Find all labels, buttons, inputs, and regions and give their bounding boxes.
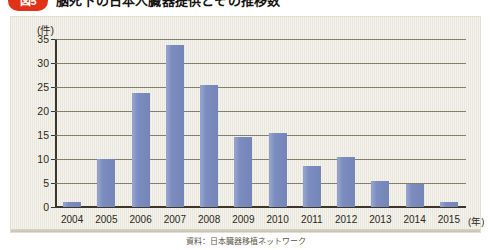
plot-area: 05101520253035 2004200520062007200820092… [55,39,466,207]
y-tick-label: 15 [37,129,49,141]
x-tick-label: 2004 [61,214,83,225]
x-tick-slot: 2011 [295,39,329,207]
x-tick-slot: 2007 [158,39,192,207]
y-tick-label: 35 [37,33,49,45]
x-tick-slot: 2015 [432,39,466,207]
x-tick-label: 2010 [267,214,289,225]
page-title: 脳死下の日本人臓器提供とその推移数 [56,0,280,9]
x-tick-slot: 2012 [329,39,363,207]
x-tick-label: 2009 [232,214,254,225]
figure-number-badge: 図5 [8,0,48,11]
x-tick-slot: 2004 [55,39,89,207]
panel-bottom-edge [11,229,480,232]
y-tick-label: 20 [37,105,49,117]
x-tick-slot: 2009 [226,39,260,207]
y-tick-label: 30 [37,57,49,69]
x-tick-slot: 2010 [261,39,295,207]
x-tick-label: 2006 [130,214,152,225]
x-tick-slot: 2006 [124,39,158,207]
x-tick-label: 2008 [198,214,220,225]
x-tick-label: 2011 [301,214,323,225]
title-header: 図5 脳死下の日本人臓器提供とその推移数 [0,0,491,15]
x-tick-label: 2015 [438,214,460,225]
chart-panel: (件) 05101520253035 200420052006200720082… [11,17,480,232]
x-axis-unit-label: (年) [468,214,484,228]
y-tick-label: 0 [43,201,49,213]
source-caption: 資料：日本臓器移植ネットワーク [0,235,491,247]
x-tick-slot: 2008 [192,39,226,207]
y-tick-label: 10 [37,153,49,165]
x-tick-label: 2005 [95,214,117,225]
x-tick-label: 2013 [369,214,391,225]
y-tick-mark [51,207,55,208]
x-tick-slot: 2014 [398,39,432,207]
x-tick-label: 2007 [164,214,186,225]
x-tick-slot: 2013 [363,39,397,207]
y-tick-label: 25 [37,81,49,93]
x-tick-label: 2012 [335,214,357,225]
x-tick-slot: 2005 [89,39,123,207]
x-tick-label: 2014 [404,214,426,225]
y-tick-label: 5 [43,177,49,189]
